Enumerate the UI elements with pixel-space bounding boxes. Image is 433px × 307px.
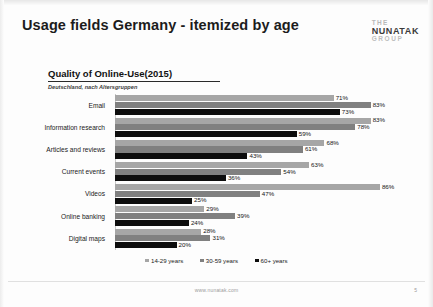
chart-row: Information research83%78%59% (22, 116, 423, 138)
bar (115, 162, 309, 168)
category-label: Videos (22, 183, 110, 205)
bar-track: 25% (115, 198, 423, 204)
category-label: Information research (22, 116, 110, 138)
bar-chart: Email71%83%73%Information research83%78%… (22, 94, 423, 252)
bar-track: 63% (115, 162, 423, 168)
legend-label: 30-59 years (206, 257, 238, 264)
bar-track: 83% (115, 118, 423, 124)
bar-group: 29%39%24% (115, 206, 423, 225)
scan-edge-top (0, 0, 433, 5)
legend-item: 60+ years (255, 257, 288, 264)
bar-value-label: 59% (297, 130, 311, 137)
chart-row: Online banking29%39%24% (22, 205, 423, 227)
chart-title: Quality of Online-Use(2015) (48, 68, 172, 79)
bar-track: 29% (115, 206, 423, 212)
bar-value-label: 78% (355, 123, 369, 130)
bar (115, 213, 235, 219)
bar-group: 68%61%43% (115, 140, 423, 159)
bar-value-label: 29% (204, 205, 218, 212)
chart-row: Articles and reviews68%61%43% (22, 138, 423, 160)
bar (115, 242, 177, 248)
nunatak-logo: THE NUNATAK GROUP (372, 20, 419, 43)
bar (115, 109, 340, 115)
legend-item: 30-59 years (200, 257, 238, 264)
footer-url: www.nunatak.com (0, 287, 433, 293)
legend-label: 60+ years (261, 257, 288, 264)
bar-group: 86%47%25% (115, 184, 423, 203)
bar-value-label: 47% (260, 190, 274, 197)
bar (115, 169, 281, 175)
bar-track: 20% (115, 242, 423, 248)
bar-track: 28% (115, 229, 423, 235)
logo-line-group: GROUP (372, 36, 419, 43)
page-title: Usage fields Germany - itemized by age (22, 17, 299, 33)
legend-item: 14-29 years (145, 257, 183, 264)
bar-value-label: 43% (247, 152, 261, 159)
bar (115, 118, 371, 124)
bar (115, 95, 334, 101)
bar-value-label: 20% (177, 241, 191, 248)
bar-track: 39% (115, 213, 423, 219)
bar-track: 68% (115, 140, 423, 146)
bar-value-label: 39% (235, 212, 249, 219)
category-label: Current events (22, 161, 110, 183)
bar-track: 59% (115, 131, 423, 137)
bar-value-label: 24% (189, 219, 203, 226)
category-label: Email (22, 94, 110, 116)
bar-group: 71%83%73% (115, 95, 423, 114)
bar-track: 47% (115, 191, 423, 197)
bar-track: 31% (115, 235, 423, 241)
bar-value-label: 25% (192, 196, 206, 203)
bar-value-label: 63% (309, 161, 323, 168)
category-label: Digital maps (22, 227, 110, 249)
legend-swatch-icon (145, 259, 149, 263)
chart-legend: 14-29 years30-59 years60+ years (0, 257, 433, 264)
bar (115, 153, 247, 159)
category-label: Articles and reviews (22, 138, 110, 160)
chart-subtitle: Deutschland, nach Altersgruppen (48, 84, 137, 90)
bar-track: 61% (115, 146, 423, 152)
bar-value-label: 71% (334, 94, 348, 101)
bar (115, 184, 380, 190)
bar-track: 83% (115, 102, 423, 108)
category-label: Online banking (22, 205, 110, 227)
bar (115, 191, 260, 197)
bar-track: 78% (115, 124, 423, 130)
slide: Usage fields Germany - itemized by age T… (0, 0, 433, 307)
bar (115, 124, 355, 130)
chart-title-underline (48, 81, 220, 82)
bar (115, 235, 210, 241)
bar-track: 36% (115, 175, 423, 181)
bar-value-label: 68% (324, 139, 338, 146)
bar-group: 83%78%59% (115, 118, 423, 137)
bar (115, 131, 297, 137)
bar (115, 206, 204, 212)
legend-swatch-icon (200, 259, 204, 263)
bar-track: 54% (115, 169, 423, 175)
legend-label: 14-29 years (151, 257, 183, 264)
bar-value-label: 54% (281, 168, 295, 175)
chart-row: Email71%83%73% (22, 94, 423, 116)
legend-swatch-icon (255, 259, 259, 263)
bar (115, 146, 303, 152)
bar-value-label: 31% (210, 234, 224, 241)
bar (115, 220, 189, 226)
bar-value-label: 36% (226, 174, 240, 181)
bar (115, 140, 324, 146)
chart-row: Digital maps28%31%20% (22, 227, 423, 249)
chart-row: Videos86%47%25% (22, 183, 423, 205)
bar (115, 175, 226, 181)
bar-group: 63%54%36% (115, 162, 423, 181)
footer-divider (8, 281, 425, 282)
bar-track: 73% (115, 109, 423, 115)
bar-value-label: 86% (380, 183, 394, 190)
bar-value-label: 83% (371, 116, 385, 123)
bar-track: 43% (115, 153, 423, 159)
bar (115, 229, 201, 235)
bar-track: 24% (115, 220, 423, 226)
bar (115, 102, 371, 108)
bar-value-label: 73% (340, 108, 354, 115)
bar-group: 28%31%20% (115, 229, 423, 248)
bar (115, 198, 192, 204)
bar-value-label: 83% (371, 101, 385, 108)
